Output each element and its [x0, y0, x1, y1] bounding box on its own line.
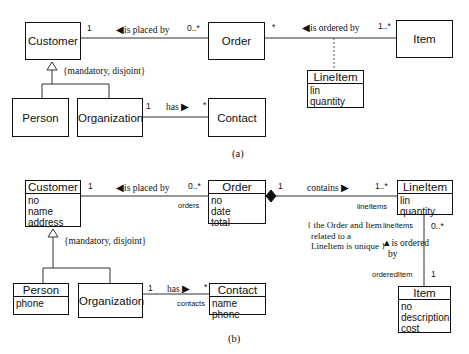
attribute: no [401, 301, 448, 312]
multiplicity: * [203, 101, 206, 110]
class-name: Item [399, 287, 450, 300]
multiplicity: 1 [431, 270, 436, 279]
class-name: Contact [210, 284, 265, 297]
class-name: Customer [26, 35, 80, 48]
association-label: contains ▶ [307, 183, 349, 193]
class-attributes: name phone [210, 297, 265, 321]
class-name: Contact [209, 111, 265, 124]
class-name: LineItem [308, 71, 363, 84]
association-label: ◀is placed by [116, 25, 169, 35]
class-item-a: Item [396, 20, 453, 58]
multiplicity: 1 [87, 24, 92, 33]
association-label: has ▶ [166, 102, 189, 112]
class-name: Order [209, 35, 264, 48]
constraint-note: { the Order and Item related to a LineIt… [307, 220, 386, 252]
class-name: Customer [26, 181, 80, 194]
role-name: lineItems [357, 203, 387, 211]
multiplicity: 1 [88, 182, 93, 191]
attribute: phone [212, 309, 263, 320]
multiplicity: * [272, 23, 275, 32]
generalization-constraint: {mandatory, disjoint} [63, 66, 145, 76]
attribute: quantity [400, 206, 450, 217]
class-attributes: no description cost [399, 300, 450, 335]
class-customer-a: Customer [25, 22, 81, 60]
class-attributes: lin quantity [398, 194, 452, 218]
association-label: ◀is placed by [116, 183, 169, 193]
class-person-b: Person phone [13, 283, 69, 315]
multiplicity: 0..* [188, 182, 201, 191]
role-name: lineItems [383, 222, 413, 230]
role-name: orders [178, 202, 199, 210]
class-name: Order [209, 181, 265, 194]
role-name: contacts [177, 300, 205, 308]
attribute: cost [401, 323, 448, 334]
class-name: Item [397, 33, 452, 46]
constraint-line: related to a [307, 231, 386, 242]
class-order-b: Order no date total [208, 180, 266, 224]
class-customer-b: Customer no name address [25, 180, 81, 227]
multiplicity: 1..* [378, 22, 391, 31]
attribute: no [28, 195, 78, 206]
multiplicity: 0..* [187, 24, 200, 33]
caption-a: (a) [232, 148, 244, 159]
class-contact-b: Contact name phone [209, 283, 266, 315]
attribute: description [401, 312, 448, 323]
class-attributes: phone [14, 297, 68, 310]
class-name: LineItem [398, 181, 452, 194]
class-lineitem-a: LineItem lin quantity [307, 70, 364, 108]
multiplicity: 1 [278, 182, 283, 191]
constraint-line: { the Order and Item [307, 220, 386, 231]
attribute: phone [16, 298, 66, 309]
caption-b: (b) [228, 333, 240, 344]
attribute: quantity [310, 96, 361, 107]
role-name: orderedItem [372, 271, 412, 279]
association-label: ◀is ordered by [302, 23, 360, 33]
multiplicity: 1 [146, 102, 151, 111]
multiplicity: 1..* [375, 182, 388, 191]
association-label: has ▶ [167, 284, 190, 294]
association-label: by [388, 249, 398, 259]
class-item-b: Item no description cost [398, 286, 451, 333]
class-organization-a: Organization [77, 98, 143, 137]
class-person-a: Person [12, 98, 69, 137]
generalization-constraint: {mandatory, disjoint} [64, 236, 146, 246]
class-name: Organization [78, 111, 142, 124]
attribute: date [211, 206, 263, 217]
class-attributes: no date total [209, 194, 265, 229]
multiplicity: * [204, 283, 207, 292]
attribute: lin [310, 85, 361, 96]
attribute: address [28, 217, 78, 228]
attribute: name [28, 206, 78, 217]
attribute: name [212, 298, 263, 309]
attribute: total [211, 217, 263, 228]
multiplicity: 1 [148, 284, 153, 293]
class-name: Person [13, 111, 68, 124]
class-lineitem-b: LineItem lin quantity [397, 180, 453, 215]
attribute: lin [400, 195, 450, 206]
attribute: no [211, 195, 263, 206]
class-organization-b: Organization [78, 283, 143, 318]
association-label: ▲is ordered [382, 238, 429, 248]
multiplicity: 0..* [431, 222, 444, 231]
class-attributes: lin quantity [308, 84, 363, 108]
class-order-a: Order [208, 22, 265, 60]
class-name: Person [14, 284, 68, 297]
class-contact-a: Contact [208, 98, 266, 137]
constraint-line: LineItem is unique } [307, 241, 386, 252]
class-name: Organization [79, 294, 142, 307]
class-attributes: no name address [26, 194, 80, 229]
